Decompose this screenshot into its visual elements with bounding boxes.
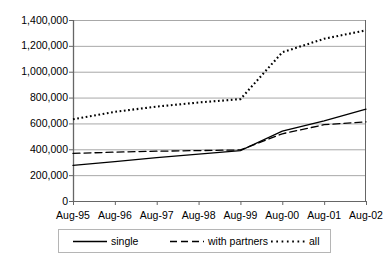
legend-swatch-solid-icon bbox=[73, 236, 107, 246]
chart-legend: singlewith partnersall bbox=[58, 229, 331, 253]
legend-swatch-dotted-icon bbox=[271, 236, 305, 246]
legend-entry: with partners bbox=[170, 230, 268, 252]
x-axis-tick-label: Aug-98 bbox=[182, 210, 216, 221]
legend-label: with partners bbox=[208, 236, 268, 247]
x-axis-tick-label: Aug-00 bbox=[265, 210, 299, 221]
x-axis-tick-label: Aug-99 bbox=[223, 210, 257, 221]
x-axis-tick-label: Aug-97 bbox=[140, 210, 174, 221]
legend-label: all bbox=[309, 236, 320, 247]
x-axis-tick-labels: Aug-95Aug-96Aug-97Aug-98Aug-99Aug-00Aug-… bbox=[0, 0, 390, 264]
legend-entry: single bbox=[73, 230, 138, 252]
x-axis-tick-label: Aug-95 bbox=[56, 210, 90, 221]
legend-label: single bbox=[111, 236, 138, 247]
x-axis-tick-label: Aug-01 bbox=[307, 210, 341, 221]
x-axis-tick-label: Aug-96 bbox=[98, 210, 132, 221]
legend-entry: all bbox=[271, 230, 320, 252]
legend-swatch-dashed-icon bbox=[170, 236, 204, 246]
x-axis-tick-label: Aug-02 bbox=[349, 210, 383, 221]
line-chart: 0200,000400,000600,000800,0001,000,0001,… bbox=[0, 0, 390, 264]
